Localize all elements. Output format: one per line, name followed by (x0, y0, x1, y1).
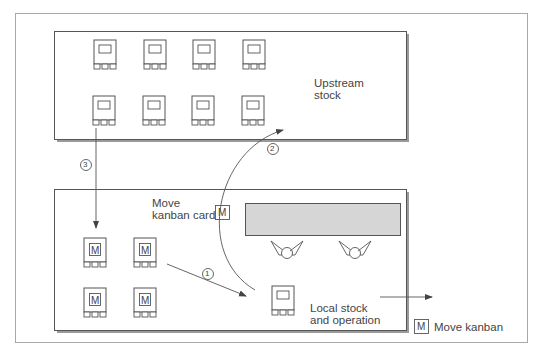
upstream-label: Upstream stock (314, 77, 364, 101)
local-stock-label: Local stock and operation (310, 302, 380, 326)
operation-bar (246, 204, 401, 236)
kanban-card-glyph: M (141, 245, 149, 257)
move-card-glyph: M (218, 207, 226, 219)
kanban-card-glyph: M (91, 245, 99, 257)
local-stock-card (272, 286, 294, 315)
upstream-card (94, 40, 116, 69)
step-3-label: 3 (83, 159, 87, 171)
legend-glyph: M (417, 321, 425, 333)
upstream-card (144, 40, 166, 69)
kanban-card-glyph: M (141, 295, 149, 307)
kanban-card-glyph: M (91, 295, 99, 307)
upstream-card (143, 96, 165, 125)
upstream-card (242, 96, 264, 125)
upstream-card (192, 96, 214, 125)
kanban-diagram (0, 0, 546, 358)
upstream-card (193, 40, 215, 69)
legend-label: Move kanban (434, 321, 503, 333)
upstream-card (93, 96, 115, 125)
step-2-label: 2 (270, 143, 274, 155)
step-1-label: 1 (205, 268, 209, 280)
upstream-card (243, 40, 265, 69)
move-kanban-card-label: Move kanban card (152, 197, 215, 221)
